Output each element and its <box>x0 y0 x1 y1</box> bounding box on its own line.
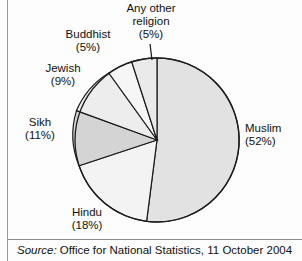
pie-label-buddhist-percent: (5%) <box>49 41 127 54</box>
pie-slice-muslim[interactable] <box>147 58 240 222</box>
pie-label-muslim: Muslim (52%) <box>245 122 301 148</box>
pie-label-sikh-percent: (11%) <box>9 129 71 142</box>
source-value: Office for National Statistics, 11 Octob… <box>57 244 292 256</box>
source-caption: Source: Office for National Statistics, … <box>17 243 292 258</box>
pie-label-hindu-name: Hindu <box>54 206 120 219</box>
chart-area: Any other religion (5%) Buddhist (5%) Je… <box>0 0 302 238</box>
pie-label-jewish: Jewish (9%) <box>27 62 99 88</box>
pie-label-hindu-percent: (18%) <box>54 219 120 232</box>
pie-label-jewish-name: Jewish <box>27 62 99 75</box>
pie-label-any-other-religion-line2: religion <box>106 15 196 28</box>
source-label: Source: <box>17 244 57 256</box>
pie-label-sikh-name: Sikh <box>9 116 71 129</box>
pie-label-hindu: Hindu (18%) <box>54 206 120 232</box>
source-divider <box>8 239 302 240</box>
pie-label-any-other-religion-line1: Any other <box>106 2 196 15</box>
pie-label-buddhist-name: Buddhist <box>49 28 127 41</box>
pie-label-jewish-percent: (9%) <box>27 75 99 88</box>
pie-label-sikh: Sikh (11%) <box>9 116 71 142</box>
pie-label-muslim-name: Muslim <box>245 122 301 135</box>
pie-chart-figure: Any other religion (5%) Buddhist (5%) Je… <box>0 0 302 261</box>
pie-label-muslim-percent: (52%) <box>245 135 301 148</box>
pie-label-buddhist: Buddhist (5%) <box>49 28 127 54</box>
